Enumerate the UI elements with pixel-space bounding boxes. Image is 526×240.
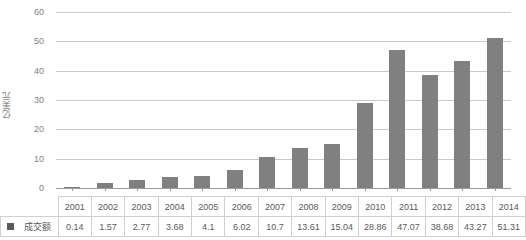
bar-slot-2003 — [121, 12, 154, 188]
table-corner-cell — [1, 197, 59, 217]
value-cell-2014: 51.31 — [492, 217, 525, 237]
table-header-row: 2001200220032004200520062007200820092010… — [1, 197, 526, 217]
bar-slot-2012 — [414, 12, 447, 188]
x-tickmark-2014 — [495, 188, 496, 191]
plot-area — [56, 12, 511, 188]
y-tick-label-20: 20 — [34, 125, 44, 134]
bar-slot-2013 — [446, 12, 479, 188]
bar-2006 — [227, 170, 243, 188]
year-header-2004: 2004 — [158, 197, 191, 217]
year-header-2005: 2005 — [192, 197, 225, 217]
bar-slot-2011 — [381, 12, 414, 188]
bar-2007 — [259, 157, 275, 188]
year-header-2001: 2001 — [58, 197, 91, 217]
table-value-row: 成交额 0.141.572.773.684.16.0210.713.6115.0… — [1, 217, 526, 237]
x-tickmark-2012 — [430, 188, 431, 191]
bar-slot-2002 — [89, 12, 122, 188]
y-tick-label-40: 40 — [34, 67, 44, 76]
year-header-2007: 2007 — [258, 197, 291, 217]
year-header-2011: 2011 — [392, 197, 425, 217]
y-tick-label-0: 0 — [39, 184, 44, 193]
bar-slot-2005 — [186, 12, 219, 188]
x-tickmark-2002 — [105, 188, 106, 191]
bar-slot-2009 — [316, 12, 349, 188]
x-tickmark-2009 — [332, 188, 333, 191]
legend-cell: 成交额 — [1, 217, 59, 237]
value-cell-2012: 38.68 — [425, 217, 458, 237]
year-header-2008: 2008 — [292, 197, 325, 217]
bar-2003 — [129, 180, 145, 188]
x-tickmark-2005 — [202, 188, 203, 191]
bar-2011 — [389, 50, 405, 188]
bar-slot-2004 — [154, 12, 187, 188]
value-cell-2008: 13.61 — [292, 217, 325, 237]
bar-slot-2001 — [56, 12, 89, 188]
value-cell-2013: 43.27 — [459, 217, 492, 237]
x-tickmark-2001 — [72, 188, 73, 191]
square-marker-icon — [7, 223, 14, 230]
bar-slot-2008 — [284, 12, 317, 188]
bar-2012 — [422, 75, 438, 188]
value-cell-2011: 47.07 — [392, 217, 425, 237]
x-tickmark-2011 — [397, 188, 398, 191]
x-tickmark-2004 — [170, 188, 171, 191]
data-table: 2001200220032004200520062007200820092010… — [0, 196, 526, 237]
bar-slot-2014 — [479, 12, 512, 188]
bar-slot-2006 — [219, 12, 252, 188]
axis-baseline — [56, 188, 511, 189]
y-tick-label-10: 10 — [34, 155, 44, 164]
bar-2008 — [292, 148, 308, 188]
x-tickmark-2010 — [365, 188, 366, 191]
x-tickmark-2007 — [267, 188, 268, 191]
value-cell-2001: 0.14 — [58, 217, 91, 237]
bar-2014 — [487, 38, 503, 189]
year-header-2013: 2013 — [459, 197, 492, 217]
year-header-2009: 2009 — [325, 197, 358, 217]
bar-2013 — [454, 61, 470, 188]
value-cell-2007: 10.7 — [258, 217, 291, 237]
year-header-2010: 2010 — [359, 197, 392, 217]
x-tickmark-2008 — [300, 188, 301, 191]
year-header-2002: 2002 — [91, 197, 124, 217]
y-tick-label-50: 50 — [34, 37, 44, 46]
value-cell-2010: 28.86 — [359, 217, 392, 237]
year-header-2006: 2006 — [225, 197, 258, 217]
y-axis-tick-labels: 6050403020100 — [0, 0, 52, 200]
legend-label: 成交额 — [24, 220, 51, 233]
bar-series-chengjiaoe — [56, 12, 511, 188]
bar-slot-2010 — [349, 12, 382, 188]
year-header-2014: 2014 — [492, 197, 525, 217]
bar-2010 — [357, 103, 373, 188]
y-tick-label-60: 60 — [34, 8, 44, 17]
bar-2005 — [194, 176, 210, 188]
year-header-2012: 2012 — [425, 197, 458, 217]
x-tickmark-2006 — [235, 188, 236, 191]
bar-slot-2007 — [251, 12, 284, 188]
year-header-2003: 2003 — [125, 197, 158, 217]
value-cell-2009: 15.04 — [325, 217, 358, 237]
y-tick-label-30: 30 — [34, 96, 44, 105]
value-cell-2006: 6.02 — [225, 217, 258, 237]
value-cell-2002: 1.57 — [91, 217, 124, 237]
value-cell-2004: 3.68 — [158, 217, 191, 237]
value-cell-2003: 2.77 — [125, 217, 158, 237]
bar-2009 — [324, 144, 340, 188]
x-tickmark-2013 — [462, 188, 463, 191]
x-tickmark-2003 — [137, 188, 138, 191]
bar-2004 — [162, 177, 178, 188]
value-cell-2005: 4.1 — [192, 217, 225, 237]
